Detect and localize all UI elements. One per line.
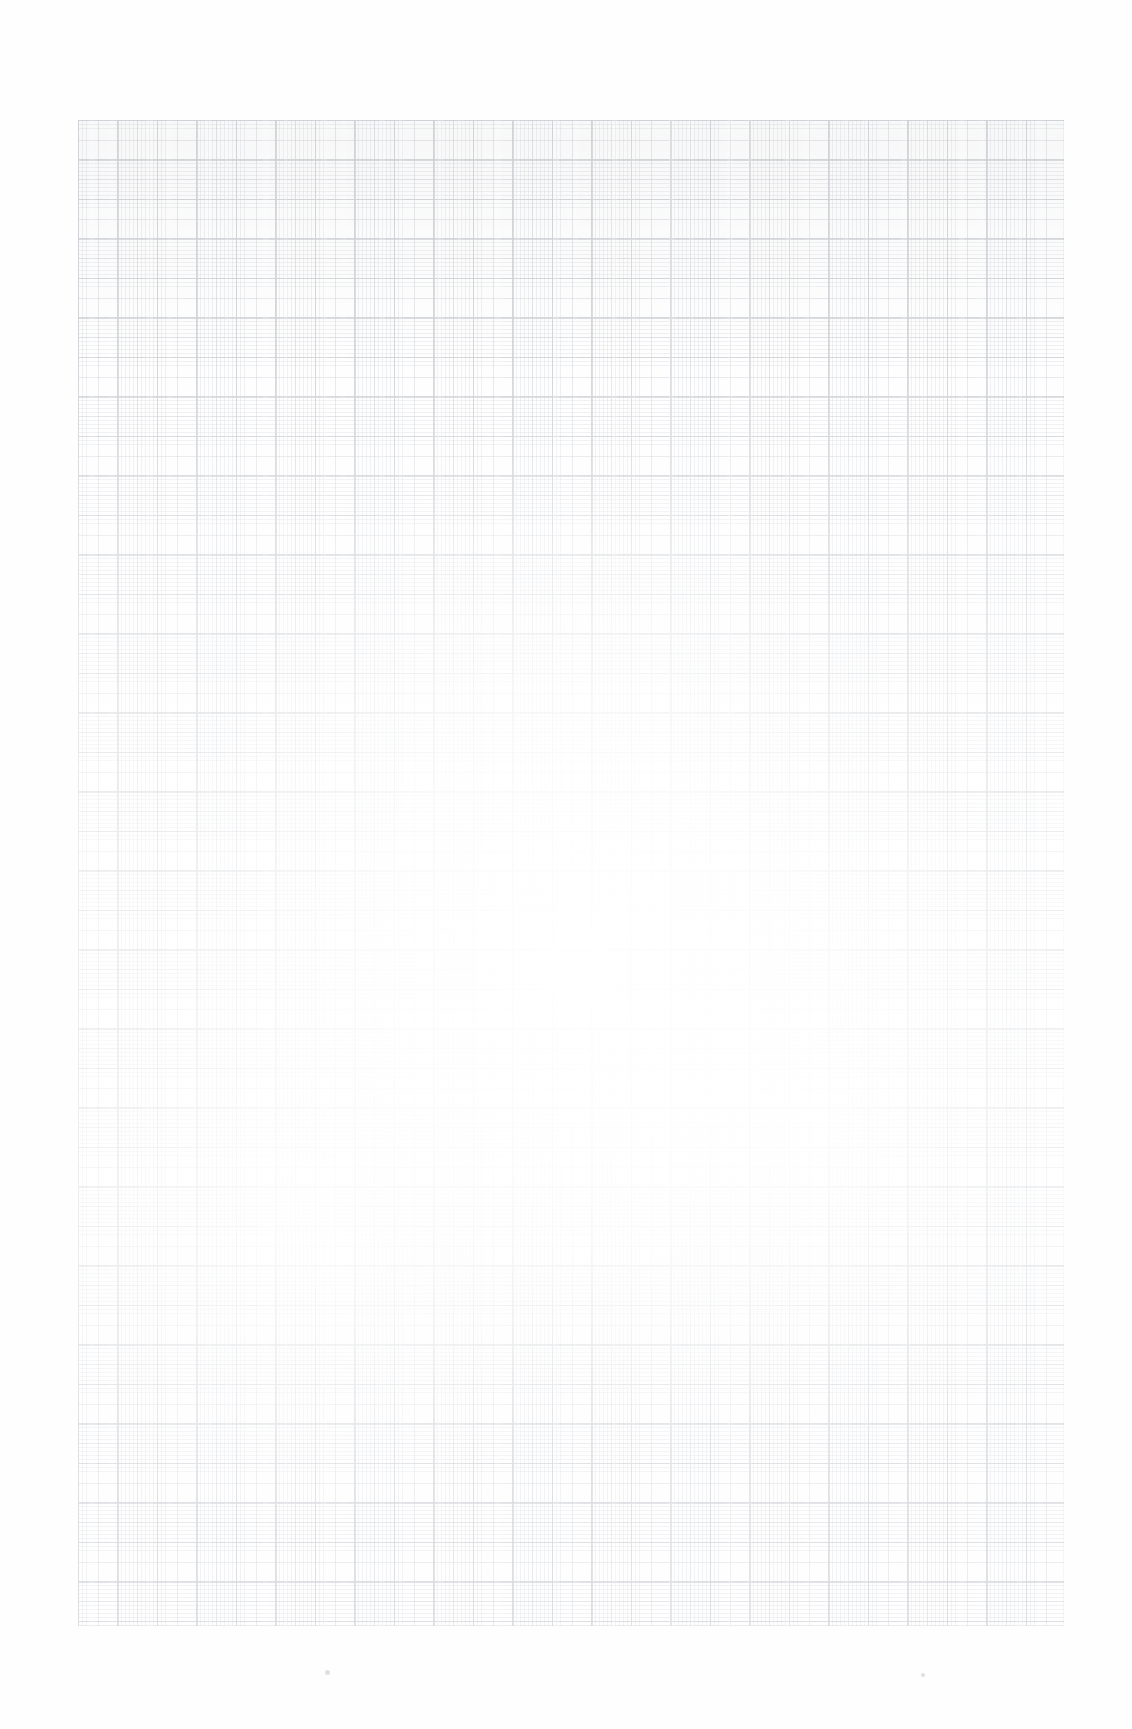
major-grid-lines [78,120,1064,1626]
graph-paper-grid [78,120,1064,1626]
grid-ink-layer [78,120,1064,1626]
scanned-page [0,0,1132,1729]
